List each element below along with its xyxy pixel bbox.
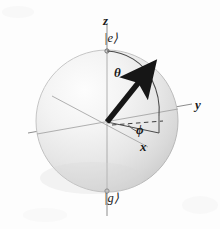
ground-state-label: |g⟩: [104, 192, 119, 205]
theta-angle-label: θ: [114, 66, 121, 79]
sphere-shadow: [40, 162, 144, 194]
phi-angle-label: ϕ: [136, 123, 144, 136]
z-axis-label: z: [103, 14, 108, 27]
x-axis-label: x: [140, 140, 147, 153]
y-axis-label: y: [195, 98, 201, 111]
excited-state-label: |e⟩: [104, 32, 118, 45]
bloch-sphere-figure: z y x θ ϕ |e⟩ |g⟩: [0, 0, 220, 229]
